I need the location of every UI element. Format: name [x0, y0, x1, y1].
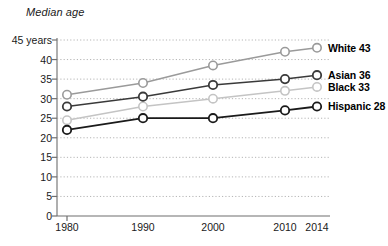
data-point-asian-1990 — [139, 93, 147, 101]
series-label-asian: Asian 36 — [328, 69, 370, 81]
data-point-hispanic-2014 — [313, 102, 321, 110]
data-point-asian-2000 — [209, 81, 217, 89]
series-line-hispanic — [67, 106, 317, 129]
data-point-white-1990 — [139, 79, 147, 87]
data-point-white-1980 — [63, 91, 71, 99]
series-label-white: White 43 — [328, 42, 370, 54]
series-line-black — [67, 87, 317, 120]
data-point-hispanic-2010 — [281, 106, 289, 114]
plot-area — [0, 0, 388, 246]
axes — [52, 38, 330, 221]
data-point-hispanic-2000 — [209, 114, 217, 122]
data-point-asian-2010 — [281, 75, 289, 83]
data-point-black-1990 — [139, 102, 147, 110]
data-point-asian-1980 — [63, 102, 71, 110]
data-point-hispanic-1980 — [63, 126, 71, 134]
series-label-black: Black 33 — [328, 81, 370, 93]
data-point-white-2000 — [209, 61, 217, 69]
data-point-asian-2014 — [313, 71, 321, 79]
data-point-black-1980 — [63, 116, 71, 124]
data-point-white-2014 — [313, 44, 321, 52]
data-point-black-2000 — [209, 94, 217, 102]
data-point-white-2010 — [281, 48, 289, 56]
data-point-hispanic-1990 — [139, 114, 147, 122]
data-point-black-2010 — [281, 87, 289, 95]
median-age-line-chart: Median age 051015202530354045 years 1980… — [0, 0, 388, 246]
series-line-white — [67, 48, 317, 95]
data-point-black-2014 — [313, 83, 321, 91]
series-label-hispanic: Hispanic 28 — [328, 100, 385, 112]
